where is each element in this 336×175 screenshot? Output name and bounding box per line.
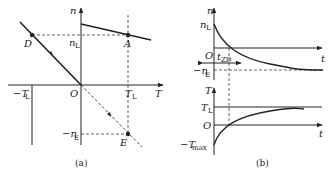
label-tl: T L — [125, 88, 137, 101]
svg-text:L: L — [206, 24, 211, 32]
label-neg-ne: −n E — [62, 128, 79, 142]
b-bottom-axis-t-label: T — [205, 85, 213, 96]
a-curve-forward — [81, 24, 151, 40]
diagram: n T O D A E n L T L −T L −n E (a) — [0, 0, 336, 175]
point-d — [30, 33, 34, 37]
point-e — [126, 132, 130, 136]
b-label-neg-tmax: −T max — [180, 139, 207, 152]
point-a — [126, 33, 130, 37]
svg-text:E: E — [205, 71, 210, 79]
svg-text:E: E — [74, 134, 79, 142]
label-e: E — [119, 137, 128, 148]
svg-text:max: max — [192, 144, 207, 152]
b-bottom-origin-label: O — [203, 120, 211, 131]
b-label-tzd: t ZD — [217, 51, 232, 64]
b-label-tl: T L — [201, 102, 213, 115]
b-label-neg-ne: −n E — [193, 65, 210, 79]
b-top-axis-t-label: t — [321, 53, 326, 64]
svg-text:L: L — [25, 93, 30, 101]
a-origin-label: O — [70, 88, 78, 99]
label-nl: n L — [69, 37, 80, 50]
caption-b: (b) — [256, 158, 269, 168]
a-axis-n-label: n — [70, 5, 76, 16]
svg-text:ZD: ZD — [221, 56, 232, 64]
label-d: D — [23, 38, 32, 49]
torque-curve — [214, 108, 304, 145]
b-top-axis-n-label: n — [207, 5, 213, 16]
label-a: A — [123, 38, 131, 49]
panel-b: n t O n L −n E t ZD T t O T L −T max (b — [180, 5, 326, 168]
caption-a: (a) — [75, 158, 87, 168]
a-axis-t-label: T — [155, 88, 163, 99]
b-bottom-axis-time-label: t — [319, 128, 324, 139]
svg-text:L: L — [208, 107, 213, 115]
svg-text:L: L — [75, 42, 80, 50]
svg-text:L: L — [132, 93, 137, 101]
panel-a: n T O D A E n L T L −T L −n E (a) — [8, 5, 163, 168]
label-neg-tl: −T L — [13, 88, 30, 101]
b-top-origin-label: O — [205, 50, 213, 61]
b-label-nl: n L — [200, 19, 211, 32]
